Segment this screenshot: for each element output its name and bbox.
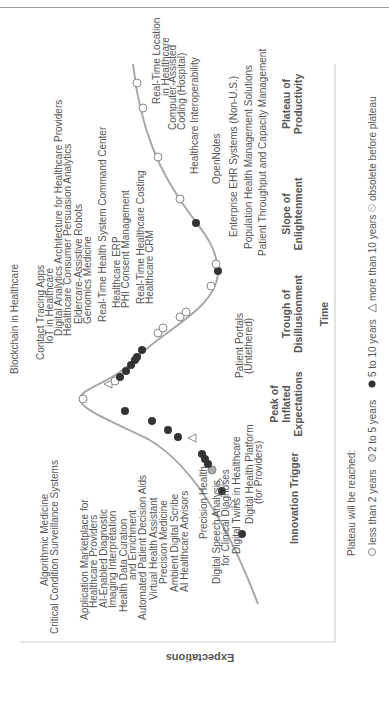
label-population-health: Population Health Management Solutions — [243, 65, 254, 249]
label-ccss: Critical Condition Surveillance Systems — [49, 460, 60, 634]
label-amp-line2: Healthcare Providers — [88, 515, 99, 608]
marker-application-marketplace — [148, 417, 156, 425]
label-crm: Healthcare CRM — [144, 230, 155, 304]
phase-peak-3: Expectations — [292, 371, 304, 437]
phase-labels: Innovation Trigger Peak of Inflated Expe… — [268, 74, 330, 544]
marker-opennotes — [176, 195, 184, 203]
phase-plateau-1: Plateau of — [280, 78, 292, 129]
legend-label-lt2: less than 2 years — [367, 469, 378, 545]
label-ambient-scribe: Ambient Digital Scribe — [169, 493, 180, 592]
phase-peak-2: Inflated — [280, 385, 292, 422]
phase-trough-1: Trough of — [280, 289, 292, 338]
marker-automated-patient-decision-aids — [188, 434, 196, 442]
marker-ai-diagnostic-imaging — [164, 426, 172, 434]
marker-phi — [159, 324, 167, 332]
marker-patient-portals — [207, 282, 215, 290]
label-ehr: Enterprise EHR Systems (Non-U.S.) — [228, 76, 239, 237]
label-patient-decision-aids: Automated Patient Decision Aids — [137, 475, 148, 620]
label-ai-advisors: AI Healthcare Advisors — [179, 491, 190, 592]
legend-icon-gt10 — [368, 304, 376, 312]
legend-icon-2to5 — [369, 455, 376, 462]
label-rtl-line2: in Healthcare — [160, 37, 171, 96]
marker-virtual-health-assistant — [198, 450, 206, 458]
marker-command-center — [138, 346, 146, 354]
phase-slope-1: Slope of — [280, 193, 292, 235]
x-axis-label: Time — [318, 302, 330, 326]
label-pp-line2: (Untethered) — [243, 318, 254, 374]
marker-genomics — [133, 353, 141, 361]
label-dhp-line2: (for Providers) — [253, 441, 264, 504]
marker-critical-condition-surveillance — [121, 407, 129, 415]
label-opennotes: OpenNotes — [211, 133, 222, 184]
legend-label-5to10: 5 to 10 years — [367, 319, 378, 377]
label-precision-health: Precision Health — [198, 466, 209, 539]
marker-cac — [139, 104, 147, 112]
phase-plateau-2: Productivity — [292, 74, 304, 135]
label-aidi-line2: Imaging Interpretation — [107, 511, 118, 608]
phase-innovation-trigger: Innovation Trigger — [288, 452, 300, 544]
legend-icon-lt2 — [369, 549, 376, 556]
marker-rtl — [133, 79, 141, 87]
label-command-center: Real-Time Health System Command Center — [97, 126, 108, 322]
label-interoperability: Healthcare Interoperability — [189, 57, 200, 174]
label-hdc-line2: and Enrichment — [127, 510, 138, 580]
phase-trough-2: Disillusionment — [292, 274, 304, 353]
marker-crm — [182, 308, 190, 316]
label-virtual-assistant: Virtual Health Assistant — [148, 497, 159, 600]
marker-algorithmic-medicine — [79, 395, 87, 403]
label-precision-medicine: Precision Medicine — [158, 500, 169, 584]
label-phi: PHI Consent Management — [120, 190, 131, 308]
hype-cycle-chart: Expectations — [0, 0, 389, 704]
legend-icon-5to10 — [369, 381, 376, 388]
label-consumer-persuasion: Healthcare Consumer Persuasion Analytics — [62, 144, 73, 336]
phase-slope-2: Enlightenment — [292, 177, 304, 250]
legend-title: Plateau will be reached: — [346, 450, 357, 556]
phase-peak-1: Peak of — [268, 385, 280, 423]
label-cac-line2: Coding (Hospital) — [176, 53, 187, 130]
legend-label-obsolete: obsolete before plateau — [367, 96, 378, 201]
point-labels: Digital Health Platform (for Providers) … — [9, 18, 268, 634]
marker-health-data-curation — [174, 433, 182, 441]
marker-population-health — [212, 260, 220, 268]
y-axis-label: Expectations — [166, 652, 234, 664]
label-dsa-line2: for Clinical Diagnoses — [220, 469, 231, 566]
legend: Plateau will be reached: less than 2 yea… — [346, 96, 378, 556]
legend-label-2to5: 2 to 5 years — [367, 400, 378, 452]
legend-label-gt10: more than 10 years — [367, 215, 378, 301]
label-digital-twins: Digital Twins in Healthcare — [231, 436, 242, 554]
label-patient-throughput: Patient Throughput and Capacity Manageme… — [257, 49, 268, 256]
label-genomics: Genomics Medicine — [82, 236, 93, 324]
marker-iot — [116, 373, 124, 381]
label-algorithmic-medicine: Algorithmic Medicine — [39, 493, 50, 586]
marker-interoperability — [154, 153, 162, 161]
marker-ehr — [192, 219, 200, 227]
label-blockchain: Blockchain in Healthcare — [9, 264, 20, 374]
